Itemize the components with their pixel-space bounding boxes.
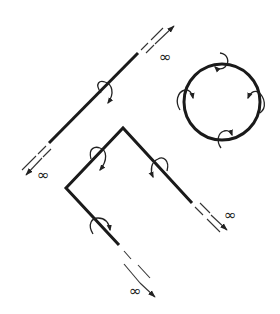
bent-wire-arrow-bottom <box>140 283 155 297</box>
infinity-label-straight-lower: ∞ <box>37 166 50 184</box>
straight-wire-dashed-extension-lower-c <box>43 149 51 157</box>
circular-loop <box>177 53 264 148</box>
straight-wire-arrow-upper <box>155 26 174 44</box>
bent-wire-dashed-extension-bottom-c <box>138 265 150 278</box>
straight-wire-dashed-extension-upper-c <box>146 45 154 53</box>
straight-wire-dashed-extension-upper-a <box>141 43 148 50</box>
bent-wire-dashed-extension-right-c <box>200 203 210 213</box>
infinity-label-bent-right: ∞ <box>224 206 237 224</box>
infinity-label-straight-upper: ∞ <box>159 48 172 66</box>
infinity-label-bent-bottom: ∞ <box>129 282 142 300</box>
bent-wire-segment <box>66 128 192 245</box>
bent-wire-dashed-extension-bottom-b <box>124 264 140 283</box>
straight-wire-dashed-extension-lower-a <box>38 146 46 154</box>
straight-wire-dashed-extension-lower-b <box>22 156 36 170</box>
field-curl-icon <box>215 53 228 69</box>
bent-wire-dashed-extension-right-a <box>195 207 203 215</box>
field-curl-icon <box>248 91 264 113</box>
bent-wire-dashed-extension-bottom-a <box>124 251 131 259</box>
circular-loop-wire <box>184 64 260 140</box>
bent-wire: ∞ ∞ <box>66 128 237 300</box>
conductor-field-diagram: ∞ ∞ ∞ ∞ <box>0 0 280 314</box>
